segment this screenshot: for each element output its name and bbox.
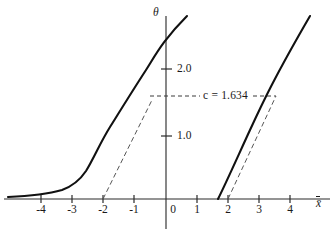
y-tick-label-1: 1.0: [177, 130, 191, 141]
x-tick-label-m3: -3: [67, 204, 77, 215]
x-bar-glyph: x̄: [316, 198, 321, 209]
x-axis-label: x̄: [316, 198, 321, 209]
right-branch-curve: [218, 16, 310, 199]
x-tick-label-2: 2: [225, 204, 231, 215]
c-value-annotation: c = 1.634: [203, 90, 248, 101]
x-tick-label-0: 0: [170, 204, 176, 215]
x-tick-label-m1: -1: [129, 204, 139, 215]
x-tick-label-1: 1: [194, 204, 200, 215]
left-tangent-line: [103, 100, 152, 199]
chart-figure: θ x̄ 2.0 1.0 c = 1.634 -4 -3 -2 -1 0 1 2…: [0, 0, 335, 239]
x-tick-label-m2: -2: [98, 204, 108, 215]
left-branch-curve: [8, 16, 187, 197]
plot-canvas: [0, 0, 335, 239]
y-tick-label-2: 2.0: [177, 63, 191, 74]
right-tangent-line: [228, 96, 276, 199]
x-tick-label-4: 4: [287, 204, 293, 215]
x-tick-label-m4: -4: [36, 204, 46, 215]
x-tick-label-3: 3: [256, 204, 262, 215]
y-axis-label: θ: [153, 7, 159, 18]
